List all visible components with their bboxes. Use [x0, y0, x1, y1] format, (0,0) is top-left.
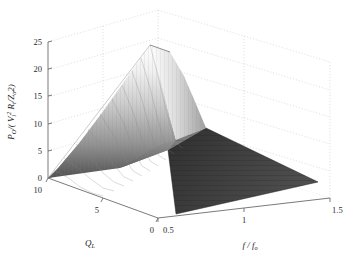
QL-axis-label: QL	[85, 238, 96, 249]
figure-3d-surface-plot: 25 20 15 10 5 0 10 5 0 0.5 1 1.5 PO/( Vi…	[0, 0, 354, 266]
plot-canvas: 25 20 15 10 5 0 10 5 0 0.5 1 1.5 PO/( Vi…	[0, 0, 354, 266]
f-label-sub: o	[254, 244, 257, 251]
svg-text:QL: QL	[85, 238, 96, 249]
f-tick-label: 1.5	[332, 205, 343, 215]
z-label-two: 2)	[6, 84, 16, 92]
z-label-slash: /(	[6, 122, 16, 131]
z-tick-label: 0	[38, 173, 42, 183]
z-tick-label: 25	[34, 37, 43, 47]
svg-text:f / fo: f / fo	[242, 240, 257, 251]
QL-tick-label: 5	[95, 205, 99, 215]
f-tick-label: 0.5	[163, 225, 174, 235]
QL-tick-label: 10	[34, 185, 43, 195]
f-label-slash: /	[245, 240, 252, 250]
z-axis-tick-labels: 25 20 15 10 5 0	[34, 37, 43, 183]
QL-label-sub: L	[91, 242, 96, 249]
QL-tick-label: 0	[150, 225, 154, 235]
z-tick-label: 15	[34, 91, 43, 101]
f-tick-label: 1	[242, 215, 246, 225]
z-axis-label: PO/( Vi2 Rt/Zo2)	[5, 84, 17, 141]
z-tick-label: 10	[34, 119, 43, 129]
frequency-axis-label: f / fo	[242, 240, 257, 251]
z-tick-label: 20	[34, 64, 43, 74]
svg-text:PO/( Vi2 Rt/Zo2): PO/( Vi2 Rt/Zo2)	[5, 84, 17, 141]
z-tick-label: 5	[38, 146, 42, 156]
z-axis-ticks	[48, 41, 52, 178]
